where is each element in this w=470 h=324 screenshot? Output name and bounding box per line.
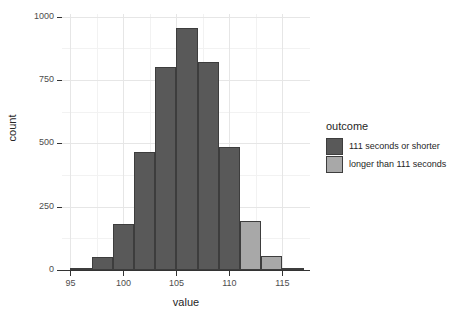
x-axis-line [62, 270, 310, 271]
y-tick-mark [57, 80, 62, 81]
histogram-bar [176, 28, 197, 270]
histogram-bar [155, 67, 176, 270]
x-tick-label: 115 [262, 278, 302, 288]
x-tick-mark [123, 271, 124, 276]
y-tick-label-wrap: 750 [0, 74, 54, 86]
x-tick-label: 110 [209, 278, 249, 288]
plot-region: 02505007501000 95100105110115 value coun… [0, 0, 320, 324]
y-tick-label: 0 [49, 264, 54, 274]
y-tick-label: 500 [39, 137, 54, 147]
y-tick-mark [57, 207, 62, 208]
y-tick-mark [57, 143, 62, 144]
histogram-bar [113, 224, 134, 270]
legend-key-swatch [326, 138, 343, 155]
histogram-bars [62, 14, 310, 270]
histogram-figure: 02505007501000 95100105110115 value coun… [0, 0, 470, 324]
y-tick-label: 750 [39, 74, 54, 84]
histogram-bar [261, 256, 282, 270]
legend-item-label: longer than 111 seconds [349, 159, 446, 169]
histogram-bar [92, 257, 113, 270]
x-tick-mark [70, 271, 71, 276]
y-tick-label-wrap: 1000 [0, 11, 54, 23]
y-tick-label-wrap: 0 [0, 264, 54, 276]
x-tick-mark [282, 271, 283, 276]
histogram-bar [219, 147, 240, 270]
y-axis-title: count [6, 88, 18, 168]
legend-items: 111 seconds or shorterlonger than 111 se… [326, 137, 468, 173]
legend-item[interactable]: longer than 111 seconds [326, 155, 468, 173]
y-tick-label-wrap: 250 [0, 201, 54, 213]
x-tick-mark [229, 271, 230, 276]
y-tick-label: 250 [39, 201, 54, 211]
histogram-bar [240, 221, 261, 270]
x-axis-title: value [62, 296, 310, 308]
y-tick-mark [57, 17, 62, 18]
histogram-bar [134, 152, 155, 270]
legend-item-label: 111 seconds or shorter [349, 141, 440, 151]
legend-key-swatch [326, 156, 343, 173]
plot-panel [62, 14, 310, 270]
legend-item[interactable]: 111 seconds or shorter [326, 137, 468, 155]
legend-title: outcome [326, 120, 468, 132]
x-tick-label: 95 [50, 278, 90, 288]
x-tick-mark [176, 271, 177, 276]
x-tick-label: 105 [156, 278, 196, 288]
legend: outcome 111 seconds or shorterlonger tha… [326, 120, 468, 173]
x-tick-label: 100 [103, 278, 143, 288]
histogram-bar [198, 62, 219, 270]
y-tick-label: 1000 [34, 11, 54, 21]
